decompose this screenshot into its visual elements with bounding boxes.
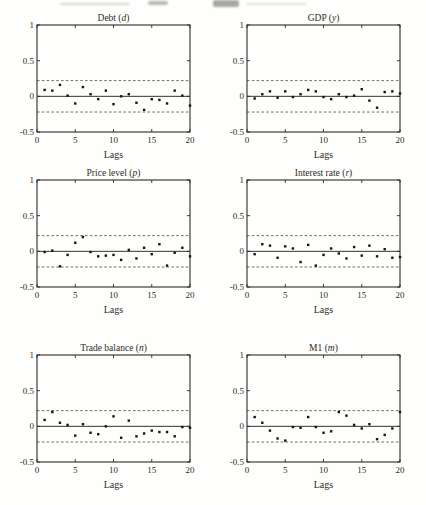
y-tick-label: 1 <box>240 350 245 360</box>
x-axis-label: Lags <box>314 149 334 160</box>
y-tick-label: -0.5 <box>20 282 35 292</box>
x-tick-label: 0 <box>35 290 40 300</box>
data-point <box>189 255 191 257</box>
data-point <box>269 244 271 246</box>
x-axis-label: Lags <box>104 304 124 315</box>
chart-title: Trade balance (n) <box>80 343 147 354</box>
data-point <box>307 416 309 418</box>
data-point <box>105 254 107 256</box>
data-point <box>97 98 99 100</box>
x-tick-label: 5 <box>73 290 78 300</box>
x-tick-label: 10 <box>319 135 329 145</box>
data-point <box>66 424 68 426</box>
data-point <box>361 88 363 90</box>
chart-title: GDP (y) <box>308 13 340 24</box>
x-tick-label: 10 <box>109 135 119 145</box>
data-point <box>307 244 309 246</box>
data-point <box>330 430 332 432</box>
y-tick-label: 0.5 <box>23 56 35 66</box>
data-point <box>74 242 76 244</box>
data-point <box>353 246 355 248</box>
data-point <box>166 431 168 433</box>
chart-symbol: d <box>122 13 127 23</box>
data-point <box>292 96 294 98</box>
data-point <box>158 243 160 245</box>
data-point <box>261 93 263 95</box>
x-axis-label: Lags <box>314 304 334 315</box>
data-point <box>299 427 301 429</box>
data-point <box>89 432 91 434</box>
chart-m1: M1 (m)05101520-0.500.51Lags <box>217 343 423 501</box>
y-tick-label: -0.5 <box>20 457 35 467</box>
y-tick-label: 1 <box>240 20 245 30</box>
data-point <box>174 89 176 91</box>
chart-symbol: p <box>131 168 137 178</box>
x-tick-label: 0 <box>35 465 40 475</box>
x-tick-label: 15 <box>357 290 367 300</box>
chart-symbol: y <box>331 13 337 23</box>
data-point <box>59 84 61 86</box>
y-tick-label: 0.5 <box>233 56 245 66</box>
x-tick-label: 5 <box>283 465 288 475</box>
data-point <box>269 429 271 431</box>
y-tick-label: 0 <box>240 91 245 101</box>
data-point <box>261 243 263 245</box>
data-point <box>189 427 191 429</box>
chart-title: Interest rate (r) <box>295 168 353 179</box>
data-point <box>43 89 45 91</box>
data-point <box>368 244 370 246</box>
data-point <box>128 93 130 95</box>
y-tick-label: 1 <box>30 175 35 185</box>
data-point <box>399 256 401 258</box>
data-point <box>292 426 294 428</box>
data-point <box>135 435 137 437</box>
chart-debt: Debt (d)05101520-0.500.51Lags <box>7 13 213 171</box>
x-tick-label: 0 <box>35 135 40 145</box>
data-point <box>97 255 99 257</box>
y-tick-label: 0 <box>240 421 245 431</box>
plot-box <box>247 180 400 287</box>
chart-title: M1 (m) <box>309 343 338 354</box>
plot-box <box>247 25 400 132</box>
data-point <box>376 107 378 109</box>
data-point <box>322 96 324 98</box>
data-point <box>338 411 340 413</box>
data-point <box>74 102 76 104</box>
y-tick-label: -0.5 <box>20 127 35 137</box>
data-point <box>128 249 130 251</box>
data-point <box>51 411 53 413</box>
data-point <box>391 90 393 92</box>
plot-svg: Interest rate (r)05101520-0.500.51Lags <box>217 168 423 326</box>
y-tick-label: 0 <box>30 91 35 101</box>
x-tick-label: 15 <box>357 135 367 145</box>
data-point <box>368 423 370 425</box>
x-axis-label: Lags <box>104 149 124 160</box>
data-point <box>322 432 324 434</box>
y-tick-label: -0.5 <box>230 282 245 292</box>
data-point <box>368 99 370 101</box>
data-point <box>376 255 378 257</box>
data-point <box>384 248 386 250</box>
data-point <box>174 435 176 437</box>
data-point <box>59 265 61 267</box>
data-point <box>51 249 53 251</box>
x-tick-label: 5 <box>283 135 288 145</box>
y-tick-label: 1 <box>30 350 35 360</box>
data-point <box>292 247 294 249</box>
data-point <box>112 254 114 256</box>
x-tick-label: 20 <box>396 290 406 300</box>
x-axis-label: Lags <box>104 479 124 490</box>
data-point <box>261 422 263 424</box>
data-point <box>82 236 84 238</box>
data-point <box>384 91 386 93</box>
data-point <box>269 90 271 92</box>
data-point <box>143 109 145 111</box>
plot-svg: Price level (p)05101520-0.500.51Lags <box>7 168 213 326</box>
data-point <box>353 94 355 96</box>
plot-svg: Debt (d)05101520-0.500.51Lags <box>7 13 213 171</box>
data-point <box>322 254 324 256</box>
x-tick-label: 20 <box>396 465 406 475</box>
plot-box <box>37 355 190 462</box>
cropped-text-artifact <box>213 0 239 7</box>
y-tick-label: 0.5 <box>23 386 35 396</box>
